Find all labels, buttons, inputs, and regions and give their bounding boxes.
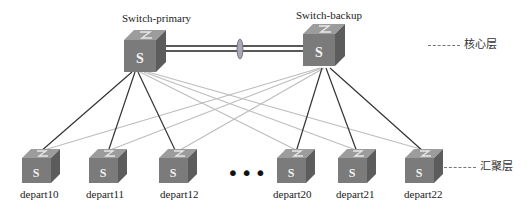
depart12-label: depart12 <box>160 188 198 200</box>
switch-primary-label: Switch-primary <box>122 12 191 24</box>
core-layer-label: 核心层 <box>428 35 497 51</box>
core-layer-dash <box>428 45 460 46</box>
link-aggregation-ellipse <box>237 39 243 59</box>
ellipsis-more-switches: ••• <box>227 163 268 183</box>
switch-depart21-icon <box>338 149 376 183</box>
depart22-label: depart22 <box>404 188 442 200</box>
aggregation-layer-text: 汇聚层 <box>480 160 513 173</box>
aggregation-layer-dash <box>444 167 476 168</box>
switch-depart11-icon <box>89 149 127 183</box>
depart21-label: depart21 <box>336 188 374 200</box>
cross-links-light <box>44 68 424 150</box>
core-link <box>165 39 305 59</box>
depart10-label: depart10 <box>20 188 58 200</box>
direct-links-dark <box>40 68 424 152</box>
switch-depart10-icon <box>22 149 60 183</box>
switch-backup-label: Switch-backup <box>296 9 362 21</box>
depart11-label: depart11 <box>86 188 124 200</box>
switch-primary-icon <box>124 30 166 72</box>
switch-depart22-icon <box>405 149 443 183</box>
core-layer-text: 核心层 <box>464 38 497 51</box>
aggregation-layer-label: 汇聚层 <box>444 157 513 173</box>
switch-backup-icon <box>303 24 345 66</box>
switch-depart12-icon <box>159 149 197 183</box>
depart20-label: depart20 <box>273 188 311 200</box>
switch-depart20-icon <box>277 149 315 183</box>
